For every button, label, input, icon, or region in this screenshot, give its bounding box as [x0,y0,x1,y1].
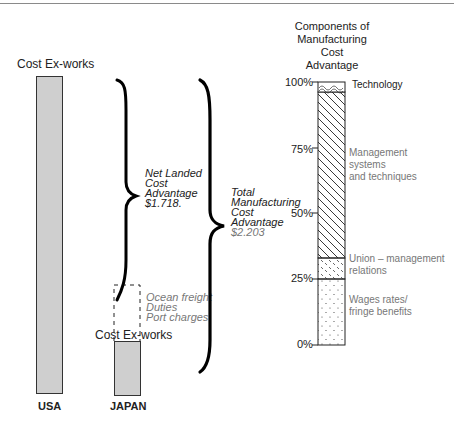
total-mfg-brace [200,80,224,372]
segment-management [318,92,345,258]
net-landed-brace [117,80,136,300]
segment-wages [318,279,345,345]
segment-union [318,258,345,279]
shipping-dashed-box [114,285,140,341]
chart-graphics [0,0,454,432]
